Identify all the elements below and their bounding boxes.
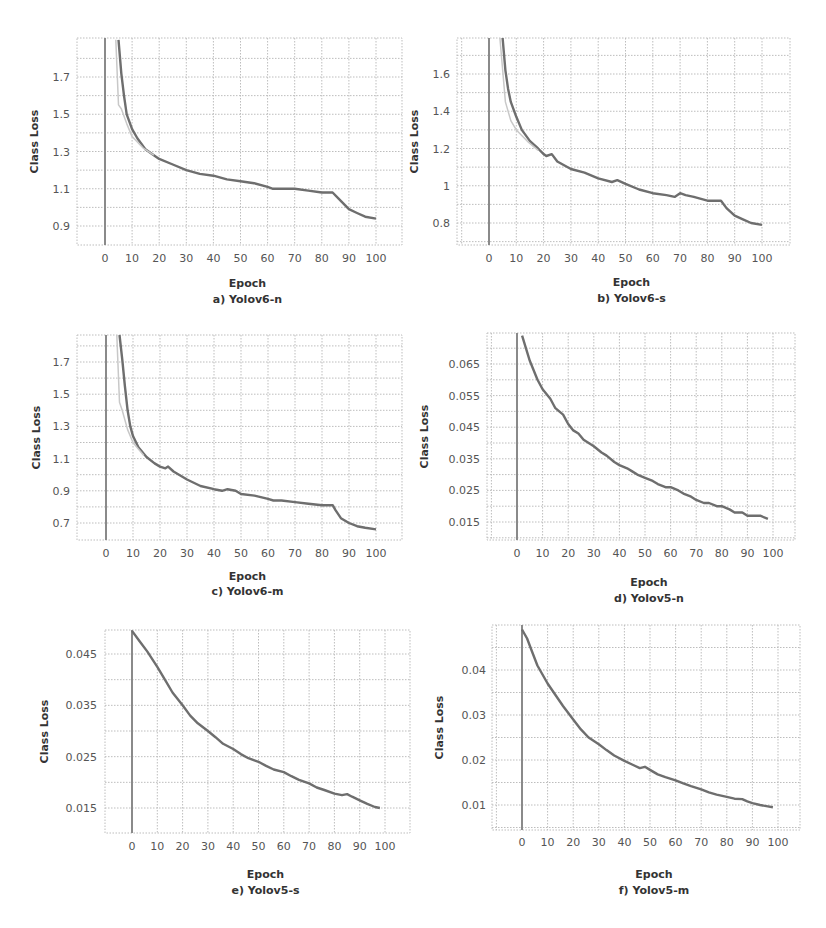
- y-tick-label: 0.025: [66, 751, 98, 764]
- x-tick-label: 100: [768, 836, 789, 849]
- plot-area: [77, 38, 402, 245]
- series-line-val: [116, 40, 154, 155]
- y-axis-label: Class Loss: [433, 695, 446, 759]
- x-tick-label: 20: [537, 252, 551, 265]
- x-tick-label: 40: [612, 547, 626, 560]
- y-tick-label: 1.5: [53, 388, 71, 401]
- x-tick-label: 50: [638, 547, 652, 560]
- chart-caption: a) Yolov6-n: [213, 293, 282, 306]
- x-tick-label: 90: [740, 547, 754, 560]
- x-tick-label: 50: [234, 252, 248, 265]
- y-tick-label: 0.065: [449, 358, 481, 371]
- y-tick-label: 1: [443, 180, 450, 193]
- x-tick-label: 60: [261, 252, 275, 265]
- x-tick-label: 70: [689, 547, 703, 560]
- x-tick-label: 20: [152, 252, 166, 265]
- x-tick-label: 20: [566, 836, 580, 849]
- y-tick-label: 0.015: [66, 802, 98, 815]
- x-tick-label: 90: [342, 252, 356, 265]
- x-tick-label: 40: [617, 836, 631, 849]
- x-tick-label: 30: [180, 547, 194, 560]
- x-tick-label: 0: [514, 547, 521, 560]
- x-tick-label: 50: [234, 547, 248, 560]
- x-tick-label: 40: [207, 547, 221, 560]
- series-line-train: [522, 630, 773, 808]
- x-tick-label: 80: [315, 547, 329, 560]
- chart-caption: b) Yolov6-s: [597, 292, 666, 305]
- x-tick-label: 30: [201, 840, 215, 853]
- x-tick-label: 90: [728, 252, 742, 265]
- y-axis-label: Class Loss: [408, 109, 421, 173]
- chart-panel-e: 01020304050607080901000.0150.0250.0350.0…: [38, 630, 410, 897]
- x-tick-label: 30: [592, 836, 606, 849]
- x-tick-label: 40: [226, 840, 240, 853]
- x-axis-label: Epoch: [229, 277, 266, 290]
- y-tick-label: 0.045: [449, 421, 481, 434]
- chart-caption: d) Yolov5-n: [614, 592, 684, 605]
- y-tick-label: 0.035: [449, 453, 481, 466]
- series-line-train: [119, 40, 377, 219]
- x-tick-label: 70: [288, 252, 302, 265]
- y-tick-label: 0.9: [53, 485, 71, 498]
- x-tick-label: 90: [745, 836, 759, 849]
- y-tick-label: 0.04: [462, 664, 487, 677]
- y-tick-label: 0.8: [433, 217, 451, 230]
- x-tick-label: 60: [277, 840, 291, 853]
- x-tick-label: 80: [720, 836, 734, 849]
- x-tick-label: 30: [179, 252, 193, 265]
- x-tick-label: 30: [564, 252, 578, 265]
- y-tick-label: 1.3: [53, 146, 71, 159]
- y-axis-label: Class Loss: [418, 404, 431, 468]
- plot-area: [492, 625, 800, 830]
- chart-caption: f) Yolov5-m: [619, 884, 689, 897]
- plot-area: [457, 38, 790, 245]
- x-tick-label: 10: [150, 840, 164, 853]
- y-tick-label: 0.02: [462, 754, 487, 767]
- y-tick-label: 0.01: [462, 799, 487, 812]
- x-axis-label: Epoch: [630, 576, 667, 589]
- x-tick-label: 60: [646, 252, 660, 265]
- x-tick-label: 90: [342, 547, 356, 560]
- x-axis-label: Epoch: [613, 276, 650, 289]
- y-tick-label: 0.055: [449, 390, 481, 403]
- x-tick-label: 100: [763, 547, 784, 560]
- y-tick-label: 0.045: [66, 648, 98, 661]
- x-tick-label: 90: [353, 840, 367, 853]
- x-tick-label: 100: [375, 840, 396, 853]
- y-tick-label: 1.4: [433, 105, 451, 118]
- series-line-train: [503, 38, 762, 225]
- x-tick-label: 0: [103, 547, 110, 560]
- y-tick-label: 1.6: [433, 68, 451, 81]
- chart-caption: e) Yolov5-s: [231, 884, 300, 897]
- x-tick-label: 80: [315, 252, 329, 265]
- y-axis-label: Class Loss: [38, 699, 51, 763]
- x-tick-label: 40: [206, 252, 220, 265]
- x-tick-label: 20: [153, 547, 167, 560]
- y-tick-label: 1.1: [53, 183, 71, 196]
- y-tick-label: 1.2: [433, 143, 451, 156]
- chart-panel-d: 01020304050607080901000.0150.0250.0350.0…: [418, 333, 795, 605]
- x-axis-label: Epoch: [229, 570, 266, 583]
- x-tick-label: 60: [261, 547, 275, 560]
- y-tick-label: 0.03: [462, 709, 487, 722]
- y-tick-label: 0.9: [53, 220, 71, 233]
- x-tick-label: 20: [176, 840, 190, 853]
- x-tick-label: 30: [587, 547, 601, 560]
- x-tick-label: 10: [541, 836, 555, 849]
- series-line-val: [500, 38, 538, 150]
- x-axis-label: Epoch: [247, 868, 284, 881]
- x-axis-label: Epoch: [635, 868, 672, 881]
- chart-panel-f: 01020304050607080901000.010.020.030.04Ep…: [433, 625, 800, 897]
- gridlines: [77, 335, 402, 540]
- x-tick-label: 20: [561, 547, 575, 560]
- gridlines: [77, 38, 402, 245]
- x-tick-label: 40: [591, 252, 605, 265]
- gridlines: [457, 38, 790, 245]
- x-tick-label: 60: [664, 547, 678, 560]
- y-axis-label: Class Loss: [30, 405, 43, 469]
- x-tick-label: 50: [619, 252, 633, 265]
- x-tick-label: 0: [486, 252, 493, 265]
- x-tick-label: 0: [129, 840, 136, 853]
- y-tick-label: 1.3: [53, 420, 71, 433]
- x-tick-label: 80: [715, 547, 729, 560]
